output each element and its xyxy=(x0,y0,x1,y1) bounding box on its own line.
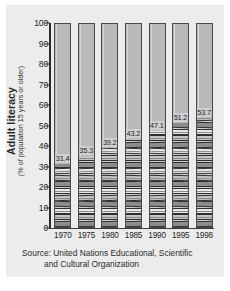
book-slab xyxy=(196,174,213,181)
bar-book-stack xyxy=(78,156,95,228)
book-slab xyxy=(172,128,189,134)
book-slab xyxy=(54,181,71,187)
book-slab xyxy=(172,188,189,194)
book-slab xyxy=(149,168,166,175)
book-slab xyxy=(78,208,95,214)
y-axis-tick-mark xyxy=(45,166,50,167)
book-slab xyxy=(196,188,213,194)
book-slab xyxy=(125,221,142,228)
book-slab xyxy=(196,194,213,201)
book-slab xyxy=(196,141,213,148)
book-slab xyxy=(149,221,166,228)
book-slab xyxy=(149,188,166,194)
plot-area: 31.435.339.243.247.151.253.7 xyxy=(51,23,216,228)
bar-book-stack xyxy=(54,164,71,228)
x-axis-tick-label: 1990 xyxy=(148,231,165,240)
y-axis-tick-mark xyxy=(45,23,50,24)
y-axis-tick-mark xyxy=(45,64,50,65)
book-slab xyxy=(172,208,189,214)
bar-group: 47.1 xyxy=(149,23,166,228)
book-slab xyxy=(78,174,95,181)
book-slab xyxy=(54,174,71,181)
x-axis-tick-label: 1975 xyxy=(78,231,95,240)
book-slab xyxy=(196,168,213,175)
x-axis-tick-label: 1985 xyxy=(125,231,142,240)
book-slab xyxy=(196,148,213,155)
book-slab xyxy=(125,161,142,167)
book-slab xyxy=(196,155,213,161)
book-slab xyxy=(149,148,166,155)
book-slab xyxy=(125,155,142,161)
book-slab xyxy=(125,181,142,187)
y-axis-tick-mark xyxy=(45,43,50,44)
bar-group: 39.2 xyxy=(101,23,118,228)
x-axis-tick-label: 1998 xyxy=(195,231,212,240)
book-slab xyxy=(78,168,95,175)
bar-value-label: 39.2 xyxy=(102,138,117,147)
book-slab xyxy=(149,181,166,187)
book-slab xyxy=(54,168,71,175)
book-slab xyxy=(101,181,118,187)
book-slab xyxy=(149,174,166,181)
bar-value-label: 31.4 xyxy=(55,154,70,163)
book-slab xyxy=(172,194,189,201)
x-axis-line xyxy=(49,228,214,229)
y-axis-tick-mark xyxy=(45,228,50,229)
book-slab xyxy=(101,201,118,208)
source-note: Source: United Nations Educational, Scie… xyxy=(22,248,218,271)
book-slab xyxy=(125,188,142,194)
book-slab xyxy=(172,221,189,228)
book-slab xyxy=(125,148,142,155)
book-slab xyxy=(149,135,166,141)
book-slab xyxy=(101,174,118,181)
book-slab xyxy=(125,214,142,220)
book-slab xyxy=(149,201,166,208)
book-slab xyxy=(125,141,142,148)
book-slab xyxy=(149,194,166,201)
bar-value-label: 43.2 xyxy=(126,129,141,138)
bar-group: 43.2 xyxy=(125,23,142,228)
book-slab xyxy=(101,221,118,228)
book-slab xyxy=(172,161,189,167)
book-slab xyxy=(54,208,71,214)
book-slab xyxy=(78,161,95,167)
book-slab xyxy=(172,174,189,181)
x-axis-tick-label: 1995 xyxy=(172,231,189,240)
book-slab xyxy=(101,148,118,155)
x-axis-tick-label: 1970 xyxy=(54,231,71,240)
book-slab xyxy=(172,214,189,220)
book-slab xyxy=(125,208,142,214)
bar-series: 31.435.339.243.247.151.253.7 xyxy=(51,23,216,228)
chart-figure: Adult literacy (% of population 15 years… xyxy=(6,5,224,277)
book-slab xyxy=(101,194,118,201)
book-slab xyxy=(196,128,213,134)
x-axis-tick-label: 1980 xyxy=(101,231,118,240)
book-slab xyxy=(172,155,189,161)
book-slab xyxy=(172,181,189,187)
book-slab xyxy=(149,161,166,167)
y-axis-tick-mark xyxy=(45,146,50,147)
book-slab xyxy=(196,214,213,220)
source-note-line-1: Source: United Nations Educational, Scie… xyxy=(22,248,192,258)
bar-group: 53.7 xyxy=(196,23,213,228)
book-slab xyxy=(125,174,142,181)
bar-book-stack xyxy=(101,148,118,228)
book-slab xyxy=(196,161,213,167)
book-slab xyxy=(172,201,189,208)
bar-book-stack xyxy=(125,139,142,228)
book-slab xyxy=(101,155,118,161)
book-slab xyxy=(101,188,118,194)
book-slab xyxy=(172,168,189,175)
book-slab xyxy=(125,201,142,208)
book-slab xyxy=(149,214,166,220)
book-slab xyxy=(125,168,142,175)
book-slab xyxy=(172,123,189,128)
y-axis-tick-mark xyxy=(45,207,50,208)
book-slab xyxy=(172,135,189,141)
book-slab xyxy=(54,201,71,208)
y-axis-tick-mark xyxy=(45,125,50,126)
book-slab xyxy=(125,194,142,201)
bar-group: 35.3 xyxy=(78,23,95,228)
book-slab xyxy=(54,221,71,228)
book-slab xyxy=(196,122,213,129)
